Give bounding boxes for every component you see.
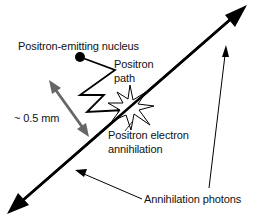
- arrowhead-top-icon: [225, 5, 247, 27]
- photon-pointer-down: [75, 169, 142, 199]
- annihilation-label-line2: annihilation: [108, 143, 162, 156]
- distance-label: ~ 0.5 mm: [14, 112, 59, 125]
- annihilation-diagram: [0, 0, 259, 221]
- positron-path-label-line2: path: [114, 72, 135, 85]
- arrowhead-bottom-icon: [7, 193, 29, 214]
- nucleus-label: Positron-emitting nucleus: [18, 40, 139, 53]
- annihilation-label-line1: Positron electron: [108, 129, 189, 142]
- pointer-up-arrowhead-icon: [222, 45, 229, 57]
- pointer-down-arrowhead-icon: [75, 169, 87, 177]
- photon-pointer-up: [209, 45, 229, 188]
- range-arrow-icon: [49, 80, 89, 137]
- positron-path-label-line1: Positron: [114, 58, 154, 71]
- photons-label: Annihilation photons: [144, 193, 241, 206]
